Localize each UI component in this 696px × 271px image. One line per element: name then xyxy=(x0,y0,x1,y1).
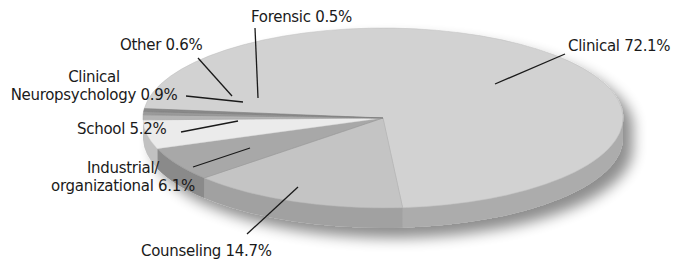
label-counseling: Counseling 14.7% xyxy=(141,242,272,260)
label-clinical-neuropsychology: Clinical Neuropsychology 0.9% xyxy=(4,68,184,104)
label-other: Other 0.6% xyxy=(120,36,202,54)
pie-slices xyxy=(143,28,623,208)
label-clinical: Clinical 72.1% xyxy=(568,37,670,55)
label-industrial-organizational: Industrial/ organizational 6.1% xyxy=(38,159,208,195)
label-forensic: Forensic 0.5% xyxy=(251,8,352,26)
label-school: School 5.2% xyxy=(77,120,166,138)
pie-body xyxy=(143,28,623,228)
